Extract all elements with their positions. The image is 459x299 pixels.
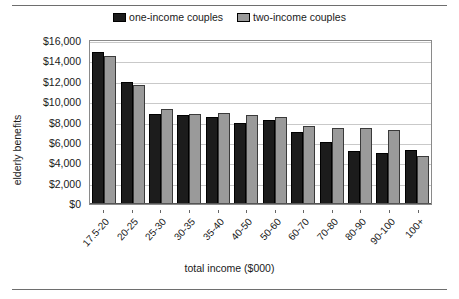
bar-one-income[interactable] [234,123,246,205]
y-axis-tick-label: $14,000 [43,55,81,67]
bar-two-income[interactable] [104,56,116,204]
x-axis-line [90,203,431,204]
x-axis-tick: 25-30 [146,210,175,258]
bar-group [289,41,317,204]
bar-group [90,41,118,204]
bar-group [317,41,345,204]
x-axis-tick-mark [332,210,333,213]
x-axis-tick-mark [389,210,390,213]
chart-page: one-income couples two-income couples el… [0,0,459,299]
legend-label-two-income: two-income couples [253,12,346,23]
x-axis-tick-label: 17.5-20 [81,216,112,249]
bar-group [175,41,203,204]
x-axis-tick: 17.5-20 [89,210,118,258]
bar-two-income[interactable] [303,126,315,204]
bar-two-income[interactable] [417,156,429,204]
bar-group [403,41,431,204]
x-axis-tick-label: 80-90 [343,216,368,242]
legend-label-one-income: one-income couples [129,12,223,23]
bar-group [118,41,146,204]
x-axis-tick-mark [189,210,190,213]
bar-group [204,41,232,204]
y-axis-tick-label: $12,000 [43,76,81,88]
legend-item-one-income: one-income couples [113,12,223,23]
x-axis-tick: 35-40 [203,210,232,258]
x-axis-tick-mark [303,210,304,213]
y-axis-tick-label: $0 [69,198,81,210]
x-axis-tick: 100+ [403,210,432,258]
x-axis-tick-mark [418,210,419,213]
bottom-divider-rule [12,289,447,290]
y-axis-tick-label: $8,000 [49,117,81,129]
bar-one-income[interactable] [263,120,275,204]
bar-group [346,41,374,204]
bar-two-income[interactable] [332,128,344,204]
bar-two-income[interactable] [218,113,230,204]
x-axis-tick: 30-35 [175,210,204,258]
x-axis-tick: 60-70 [289,210,318,258]
chart-legend: one-income couples two-income couples [0,12,459,23]
y-axis-tick-label: $10,000 [43,96,81,108]
bar-one-income[interactable] [92,52,104,204]
bar-one-income[interactable] [405,150,417,205]
y-axis-title: elderly benefits [9,85,25,215]
legend-swatch-two-income [237,13,250,22]
top-divider-rule [12,5,447,6]
y-axis-tick-label: $2,000 [49,178,81,190]
y-axis-title-text: elderly benefits [11,115,23,186]
x-axis-tick-mark [103,210,104,213]
bar-group [232,41,260,204]
x-axis-ticks: 17.5-2020-2525-3030-3535-4040-5050-6060-… [89,210,432,258]
x-axis-tick: 90-100 [375,210,404,258]
chart-area: elderly benefits $16,000$14,000$12,000$1… [5,30,454,285]
x-axis-tick: 20-25 [118,210,147,258]
x-axis-title: total income ($000) [5,262,454,274]
x-axis-tick-label: 60-70 [286,216,311,242]
y-axis-tick-label: $4,000 [49,157,81,169]
x-axis-tick: 80-90 [346,210,375,258]
x-axis-tick: 40-50 [232,210,261,258]
bar-two-income[interactable] [360,128,372,204]
legend-swatch-one-income [113,13,126,22]
bar-two-income[interactable] [275,117,287,204]
bar-groups [90,41,431,204]
x-axis-tick-label: 20-25 [115,216,140,242]
plot-wrapper: $16,000$14,000$12,000$10,000$8,000$6,000… [31,40,432,215]
bar-group [261,41,289,204]
legend-item-two-income: two-income couples [237,12,346,23]
y-axis-tick-label: $16,000 [43,35,81,47]
bar-one-income[interactable] [121,82,133,204]
x-axis-tick: 50-60 [260,210,289,258]
bar-two-income[interactable] [246,115,258,204]
x-axis-tick-mark [160,210,161,213]
bar-one-income[interactable] [376,153,388,204]
x-axis-tick-label: 70-80 [315,216,340,242]
x-axis-tick-label: 25-30 [143,216,168,242]
x-axis-tick-label: 40-50 [229,216,254,242]
x-axis-tick-mark [246,210,247,213]
bar-one-income[interactable] [177,115,189,204]
bar-two-income[interactable] [161,109,173,204]
x-axis-tick-mark [218,210,219,213]
y-axis-tick-label: $6,000 [49,137,81,149]
bar-one-income[interactable] [149,114,161,204]
bar-one-income[interactable] [206,117,218,204]
bar-group [374,41,402,204]
x-axis-tick-label: 30-35 [172,216,197,242]
x-axis-tick-mark [132,210,133,213]
plot-region [89,40,432,205]
bar-two-income[interactable] [388,130,400,204]
bar-one-income[interactable] [348,151,360,204]
x-axis-tick-label: 100+ [403,216,426,240]
bar-one-income[interactable] [320,142,332,204]
x-axis-tick-mark [360,210,361,213]
x-axis-tick-label: 50-60 [258,216,283,242]
bar-one-income[interactable] [291,132,303,204]
bar-two-income[interactable] [133,85,145,204]
y-axis-ticks: $16,000$14,000$12,000$10,000$8,000$6,000… [31,40,85,205]
x-axis-tick-mark [275,210,276,213]
x-axis-tick-label: 35-40 [200,216,225,242]
bar-two-income[interactable] [189,114,201,204]
bar-group [147,41,175,204]
